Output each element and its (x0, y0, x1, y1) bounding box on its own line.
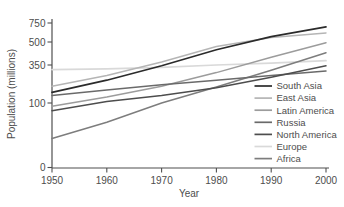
y-tick-label: 500 (29, 37, 46, 48)
x-tick-label: 1950 (41, 175, 64, 186)
y-tick-label: 100 (29, 98, 46, 109)
legend-label-russia: Russia (277, 117, 307, 128)
x-tick-label: 1960 (96, 175, 119, 186)
population-line-chart: 0100350500750195019601970198019902000Sou… (0, 0, 344, 207)
x-tick-label: 1970 (150, 175, 173, 186)
series-line-east-asia (52, 33, 326, 86)
chart-figure: 0100350500750195019601970198019902000Sou… (0, 0, 344, 207)
x-axis-title: Year (179, 188, 199, 199)
legend-label-latin-america: Latin America (277, 105, 335, 116)
legend-label-east-asia: East Asia (277, 92, 317, 103)
y-axis-title: Population (millions) (6, 49, 17, 139)
x-tick-label: 2000 (315, 175, 338, 186)
y-tick-label: 0 (40, 162, 46, 173)
legend-label-south-asia: South Asia (277, 80, 323, 91)
x-tick-label: 1990 (260, 175, 283, 186)
y-tick-label: 750 (29, 18, 46, 29)
legend-label-africa: Africa (277, 153, 302, 164)
x-tick-label: 1980 (205, 175, 228, 186)
legend-label-north-america: North America (277, 129, 338, 140)
legend-label-europe: Europe (277, 141, 308, 152)
y-tick-label: 350 (29, 60, 46, 71)
